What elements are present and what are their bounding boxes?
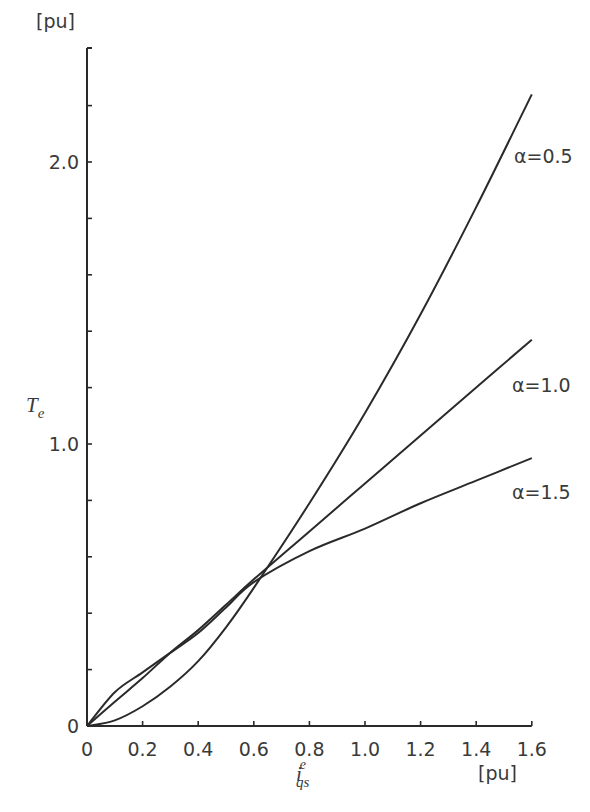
y-unit-label: [pu] [36, 10, 75, 32]
series-line-2 [87, 340, 532, 726]
x-tick-label: 0.6 [239, 738, 269, 760]
series-label-2: α=1.0 [512, 374, 571, 396]
axes [87, 48, 532, 726]
y-tick-label: 0 [67, 715, 79, 737]
x-tick-label: 0.2 [127, 738, 157, 760]
x-tick-label: 1.0 [350, 738, 380, 760]
x-tick-label: 1.6 [517, 738, 547, 760]
x-unit-label: [pu] [478, 762, 517, 784]
x-tick-label: 1.4 [461, 738, 491, 760]
series-line-3 [87, 458, 532, 726]
y-tick-label: 2.0 [49, 151, 79, 173]
series-lines [87, 94, 532, 726]
y-tick-label: 1.0 [49, 433, 79, 455]
torque-current-chart: [pu] [pu] Te ieqs 00.20.40.60.81.01.21.4… [0, 0, 590, 812]
series-label-1: α=0.5 [514, 145, 573, 167]
series-line-1 [87, 94, 532, 726]
x-tick-label: 1.2 [405, 738, 435, 760]
labels: [pu] [pu] Te ieqs 00.20.40.60.81.01.21.4… [26, 10, 573, 790]
x-tick-label: 0 [81, 738, 93, 760]
x-tick-label: 0.4 [183, 738, 213, 760]
series-label-3: α=1.5 [512, 481, 571, 503]
x-axis-label: ieqs [296, 757, 310, 790]
y-axis-label: Te [26, 393, 45, 421]
axis-ticks [87, 106, 532, 726]
x-tick-label: 0.8 [294, 738, 324, 760]
